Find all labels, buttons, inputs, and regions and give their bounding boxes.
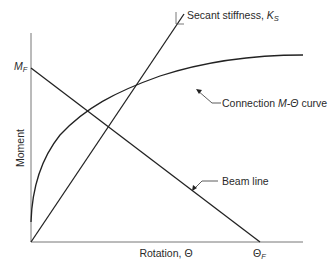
diagram-canvas: MF ΘF Moment Rotation, Θ Secant stiffnes…: [0, 0, 336, 267]
connection-label-leader: [197, 90, 221, 103]
beam-line: [31, 68, 260, 242]
beam-line-label-leader: [193, 181, 218, 190]
secant-stiffness-label: Secant stiffness, KS: [187, 9, 279, 23]
connection-curve-label: Connection M-Θ curve: [222, 97, 327, 109]
secant-label-leader: [176, 12, 184, 24]
beam-arrow-icon: [192, 185, 197, 191]
moment-axis-label: Moment: [14, 129, 26, 167]
rotation-axis-label: Rotation, Θ: [139, 247, 192, 259]
theta-f-label: ΘF: [253, 247, 266, 261]
connection-m-theta-curve: [31, 55, 303, 222]
secant-stiffness-line: [31, 14, 184, 242]
beam-line-label: Beam line: [222, 175, 269, 187]
mf-label: MF: [14, 60, 28, 74]
